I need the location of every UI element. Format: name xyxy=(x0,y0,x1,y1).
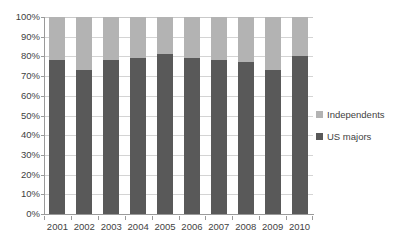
y-axis-tick-label: 100% xyxy=(4,12,40,22)
chart-legend: Independents US majors xyxy=(316,109,393,153)
legend-label-us-majors: US majors xyxy=(327,131,371,142)
y-axis-tick-label: 20% xyxy=(4,170,40,180)
y-axis-tick-label: 10% xyxy=(4,189,40,199)
legend-swatch-independents xyxy=(316,111,323,118)
y-axis-tick-label: 40% xyxy=(4,130,40,140)
x-axis-tick-label: 2008 xyxy=(231,221,261,232)
bar-segment-us-majors[interactable] xyxy=(76,70,92,214)
bar-segment-independents[interactable] xyxy=(211,17,227,60)
x-axis-tick-mark xyxy=(152,216,153,220)
x-axis-tick-label: 2001 xyxy=(42,221,72,232)
bar-group[interactable] xyxy=(292,17,308,214)
bar-segment-independents[interactable] xyxy=(265,17,281,70)
legend-item-independents[interactable]: Independents xyxy=(316,109,393,120)
bar-segment-us-majors[interactable] xyxy=(184,58,200,214)
x-axis-tick-mark xyxy=(71,216,72,220)
bar-segment-independents[interactable] xyxy=(292,17,308,56)
x-axis-tick-label: 2004 xyxy=(123,221,153,232)
bar-segment-independents[interactable] xyxy=(157,17,173,54)
y-axis-tick-label: 0% xyxy=(4,209,40,219)
y-axis-tick-label: 60% xyxy=(4,91,40,101)
bar-group[interactable] xyxy=(103,17,119,214)
x-axis-tick-labels: 2001200220032004200520062007200820092010 xyxy=(44,216,313,238)
bar-segment-independents[interactable] xyxy=(184,17,200,58)
bar-segment-independents[interactable] xyxy=(103,17,119,60)
bar-segment-independents[interactable] xyxy=(76,17,92,70)
bar-group[interactable] xyxy=(76,17,92,214)
x-axis-tick-mark xyxy=(286,216,287,220)
bar-segment-us-majors[interactable] xyxy=(157,54,173,214)
bar-segment-independents[interactable] xyxy=(238,17,254,62)
bar-segment-us-majors[interactable] xyxy=(292,56,308,214)
x-axis-tick-mark xyxy=(44,216,45,220)
stacked-bar-chart: 0%10%20%30%40%50%60%70%80%90%100% 200120… xyxy=(0,0,393,245)
x-axis-tick-mark xyxy=(205,216,206,220)
x-axis-tick-mark xyxy=(179,216,180,220)
legend-item-us-majors[interactable]: US majors xyxy=(316,131,393,142)
y-axis-line xyxy=(44,17,45,215)
bar-group[interactable] xyxy=(184,17,200,214)
x-axis-tick-label: 2002 xyxy=(69,221,99,232)
bar-segment-independents[interactable] xyxy=(49,17,65,60)
x-axis-tick-label: 2003 xyxy=(96,221,126,232)
legend-label-independents: Independents xyxy=(327,109,385,120)
bar-group[interactable] xyxy=(130,17,146,214)
x-axis-tick-label: 2009 xyxy=(258,221,288,232)
y-axis-tick-labels: 0%10%20%30%40%50%60%70%80%90%100% xyxy=(0,0,40,245)
bar-segment-us-majors[interactable] xyxy=(265,70,281,214)
y-axis-tick-label: 80% xyxy=(4,51,40,61)
x-axis-tick-mark xyxy=(125,216,126,220)
bar-segment-us-majors[interactable] xyxy=(130,58,146,214)
y-axis-tick-label: 90% xyxy=(4,32,40,42)
y-axis-tick-label: 30% xyxy=(4,150,40,160)
x-axis-tick-label: 2010 xyxy=(285,221,315,232)
bar-group[interactable] xyxy=(211,17,227,214)
plot-area xyxy=(44,17,313,214)
y-axis-tick-label: 50% xyxy=(4,111,40,121)
x-axis-tick-label: 2005 xyxy=(150,221,180,232)
x-axis-tick-mark xyxy=(312,216,313,220)
bar-group[interactable] xyxy=(265,17,281,214)
bar-segment-us-majors[interactable] xyxy=(238,62,254,214)
bar-segment-independents[interactable] xyxy=(130,17,146,58)
x-axis-tick-mark xyxy=(259,216,260,220)
y-axis-tick-label: 70% xyxy=(4,71,40,81)
bar-segment-us-majors[interactable] xyxy=(211,60,227,214)
bar-group[interactable] xyxy=(238,17,254,214)
bar-segment-us-majors[interactable] xyxy=(49,60,65,214)
x-axis-tick-label: 2007 xyxy=(204,221,234,232)
x-axis-tick-mark xyxy=(98,216,99,220)
bar-group[interactable] xyxy=(157,17,173,214)
x-axis-line xyxy=(44,214,314,215)
bar-segment-us-majors[interactable] xyxy=(103,60,119,214)
x-axis-tick-label: 2006 xyxy=(177,221,207,232)
legend-swatch-us-majors xyxy=(316,133,323,140)
x-axis-tick-mark xyxy=(232,216,233,220)
bar-group[interactable] xyxy=(49,17,65,214)
